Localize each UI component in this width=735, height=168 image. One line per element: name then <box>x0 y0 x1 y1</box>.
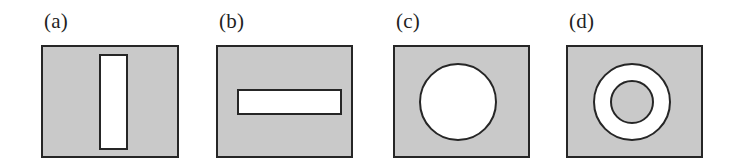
horizontal-slot-shape <box>237 89 342 115</box>
panel-d-box <box>566 45 703 158</box>
panel-c-box <box>393 45 530 158</box>
circular-hole-shape <box>419 63 497 141</box>
panel-c-label: (c) <box>396 11 420 32</box>
vertical-slot-shape <box>99 54 128 150</box>
panel-b-label: (b) <box>219 11 244 32</box>
panel-a-box <box>41 45 179 158</box>
panel-b-box <box>216 45 353 158</box>
panel-d-label: (d) <box>569 11 594 32</box>
figure-panel-row: (a) (b) (c) (d) <box>0 0 735 168</box>
panel-a-label: (a) <box>44 11 68 32</box>
annular-ring-inner-hole <box>610 80 654 124</box>
